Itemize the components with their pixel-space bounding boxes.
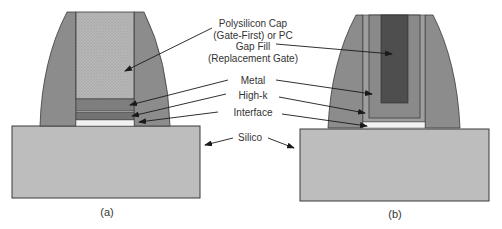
arrow-silicon-b [268, 138, 294, 148]
label-silicon: Silico [238, 132, 262, 144]
arrow-silicon-a [205, 138, 233, 145]
metal-layer-a [76, 99, 134, 111]
polysilicon-line1: Polysilicon Cap [208, 18, 298, 30]
label-high-k: High-k [239, 90, 268, 102]
gap-fill-b [381, 15, 408, 103]
panel-b [300, 15, 489, 201]
silicon-substrate-b [300, 129, 489, 201]
left-spacer-b [328, 15, 363, 128]
right-spacer-a [134, 12, 170, 126]
interface-layer-b [363, 122, 425, 128]
label-metal: Metal [241, 75, 265, 87]
gap-fill-line2: (Replacement Gate) [208, 53, 298, 65]
label-polysilicon-cap: Polysilicon Cap (Gate-First) or PC Gap F… [208, 18, 298, 64]
gap-fill-line1: Gap Fill [208, 41, 298, 53]
interface-layer-a [76, 120, 134, 126]
caption-b: (b) [388, 208, 401, 220]
silicon-substrate-a [12, 126, 200, 198]
caption-a: (a) [100, 206, 113, 218]
high-k-layer-a [76, 112, 134, 120]
polysilicon-cap-a [76, 12, 134, 99]
label-interface: Interface [234, 107, 273, 119]
left-spacer-a [40, 12, 76, 126]
polysilicon-line2: (Gate-First) or PC [208, 30, 298, 42]
right-spacer-b [425, 15, 460, 128]
panel-a [12, 12, 200, 198]
